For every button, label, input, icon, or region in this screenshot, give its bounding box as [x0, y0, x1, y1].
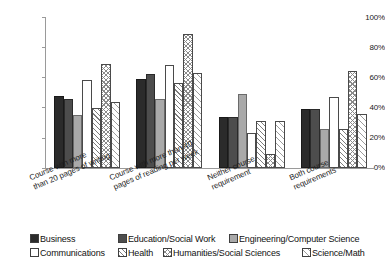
bar-health-group-2 — [256, 121, 265, 168]
bar-business-group-1 — [136, 79, 145, 168]
legend-item-health[interactable]: Health — [118, 247, 153, 258]
legend-label-science-math: Science/Math — [312, 248, 365, 258]
legend-swatch-health-icon — [118, 248, 127, 257]
legend-swatch-education-icon — [118, 234, 127, 243]
legend-item-humanities-social-sciences[interactable]: Humanities/Social Sciences — [163, 247, 280, 258]
legend-label-communications: Communications — [40, 248, 105, 258]
legend-item-communications[interactable]: Communications — [30, 247, 105, 258]
legend-swatch-business-icon — [30, 234, 39, 243]
bar-business-group-2 — [219, 117, 228, 168]
legend-item-education-social-work[interactable]: Education/Social Work — [118, 233, 215, 244]
bar-business-group-3 — [301, 109, 310, 168]
bar-education-social-work-group-3 — [310, 109, 319, 168]
legend-label-business: Business — [40, 234, 75, 244]
legend: Business Education/Social Work Engineeri… — [0, 232, 385, 263]
bar-humanities-social-sciences-group-3 — [348, 71, 357, 168]
legend-label-health: Health — [128, 248, 153, 258]
legend-row-1: Business Education/Social Work Engineeri… — [0, 233, 385, 246]
legend-label-humanities-social-sciences: Humanities/Social Sciences — [173, 248, 280, 258]
bar-science-math-group-2 — [275, 121, 284, 168]
bar-humanities-social-sciences-group-2 — [266, 154, 275, 168]
bar-science-math-group-3 — [357, 114, 366, 168]
legend-item-business[interactable]: Business — [30, 233, 75, 244]
bar-chart: 100% 80% 60% 40% 20% 0% Course with more… — [0, 0, 385, 263]
legend-swatch-communications-icon — [30, 248, 39, 257]
bar-science-math-group-0 — [111, 102, 120, 168]
bar-health-group-3 — [339, 129, 348, 168]
legend-swatch-science-math-icon — [302, 248, 311, 257]
legend-item-engineering-computer-science[interactable]: Engineering/Computer Science — [229, 233, 359, 244]
legend-item-science-math[interactable]: Science/Math — [302, 247, 365, 258]
legend-label-engineering-computer-science: Engineering/Computer Science — [239, 234, 359, 244]
legend-swatch-humanities-icon — [163, 248, 172, 257]
legend-row-2: Communications Health Humanities/Social … — [0, 247, 385, 260]
bar-business-group-0 — [54, 96, 63, 168]
legend-swatch-engineering-icon — [229, 234, 238, 243]
legend-label-education-social-work: Education/Social Work — [128, 234, 215, 244]
